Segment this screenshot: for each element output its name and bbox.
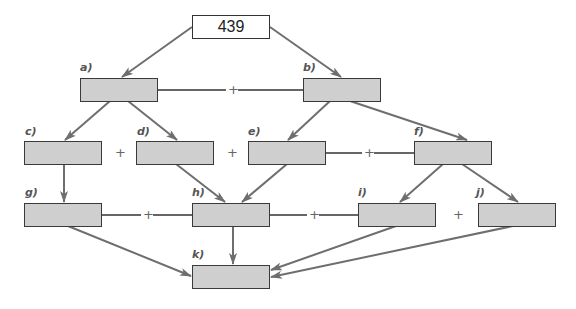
- node-box-j: [478, 203, 556, 227]
- node-box-b: [303, 78, 381, 102]
- arrow-f-j: [462, 164, 518, 202]
- label-e: e): [248, 125, 261, 138]
- label-h: h): [192, 186, 205, 199]
- node-box-h: [192, 203, 270, 227]
- plus-operator-ef: +: [364, 146, 375, 159]
- label-g: g): [25, 186, 38, 199]
- label-j: j): [476, 186, 485, 199]
- arrow-e-h: [242, 164, 287, 202]
- label-a: a): [80, 61, 92, 74]
- node-box-d: [136, 141, 214, 165]
- node-box-e: [248, 141, 326, 165]
- arrow-g-k: [68, 226, 191, 276]
- arrow-a-d: [128, 101, 177, 140]
- label-b: b): [303, 61, 316, 74]
- label-d: d): [137, 125, 150, 138]
- label-i: i): [358, 186, 367, 199]
- plus-operator-hi: +: [309, 208, 320, 221]
- arrow-f-i: [400, 164, 443, 202]
- arrow-b-e: [288, 101, 330, 140]
- root-value: 439: [218, 18, 245, 36]
- node-box-a: [80, 78, 158, 102]
- plus-operator-ij: +: [453, 208, 464, 221]
- arrow-b-f: [350, 101, 467, 140]
- root-box: 439: [192, 15, 270, 39]
- node-box-c: [24, 141, 102, 165]
- plus-operator-gh: +: [143, 208, 154, 221]
- node-box-i: [358, 203, 436, 227]
- arrow-root-a: [122, 27, 192, 77]
- arrow-j-k: [271, 226, 513, 277]
- node-box-k: [192, 265, 270, 289]
- arrow-a-c: [65, 101, 110, 140]
- node-box-f: [414, 141, 492, 165]
- label-c: c): [25, 125, 37, 138]
- plus-operator-ab: +: [228, 83, 239, 96]
- plus-operator-cd: +: [115, 146, 126, 159]
- node-box-g: [24, 203, 102, 227]
- label-k: k): [192, 248, 204, 261]
- label-f: f): [414, 125, 424, 138]
- plus-operator-de: +: [227, 146, 238, 159]
